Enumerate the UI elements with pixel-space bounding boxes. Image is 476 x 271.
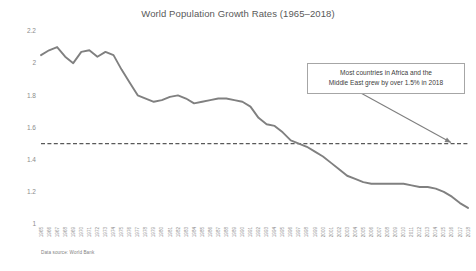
x-tick-label: 2001 xyxy=(329,227,334,238)
y-tick-label: 2 xyxy=(32,59,36,66)
chart-plot-area: 11.21.41.61.822.2 1965196619671968196919… xyxy=(0,0,476,271)
y-tick-label: 1.8 xyxy=(27,92,36,99)
x-tick-label: 1966 xyxy=(47,227,52,238)
chart-container: World Population Growth Rates (1965–2018… xyxy=(0,0,476,271)
annotation-arrow xyxy=(359,92,451,143)
x-tick-label: 2011 xyxy=(409,227,414,237)
x-tick-label: 2006 xyxy=(369,227,374,238)
x-tick-label: 2008 xyxy=(385,227,390,238)
x-tick-label: 1996 xyxy=(288,227,293,238)
x-tick-label: 1995 xyxy=(280,227,285,238)
x-tick-label: 1981 xyxy=(168,227,173,238)
x-tick-label: 2016 xyxy=(449,227,454,238)
x-tick-label: 1990 xyxy=(240,227,245,238)
x-tick-label: 1983 xyxy=(184,227,189,238)
x-tick-label: 1980 xyxy=(159,227,164,238)
y-tick-label: 1 xyxy=(32,220,36,227)
x-tick-label: 2005 xyxy=(361,227,366,238)
annotation-callout: Most countries in Africa and the Middle … xyxy=(307,63,465,94)
x-axis: 1965196619671968196919701971197219731974… xyxy=(39,227,471,238)
x-tick-label: 1977 xyxy=(135,227,140,238)
x-tick-label: 1997 xyxy=(296,227,301,238)
annotation-line-2: Middle East grew by over 1.5% in 2018 xyxy=(329,79,443,86)
x-tick-label: 1988 xyxy=(224,227,229,238)
x-tick-label: 1971 xyxy=(87,227,92,238)
y-tick-label: 1.2 xyxy=(27,188,36,195)
x-tick-label: 1972 xyxy=(95,227,100,238)
x-tick-label: 2002 xyxy=(337,227,342,238)
x-tick-label: 2018 xyxy=(466,227,471,238)
x-tick-label: 1984 xyxy=(192,227,197,238)
x-tick-label: 2013 xyxy=(425,227,430,238)
x-tick-label: 1991 xyxy=(248,227,253,238)
x-tick-label: 1978 xyxy=(143,227,148,238)
x-tick-label: 2000 xyxy=(321,227,326,238)
x-tick-label: 1985 xyxy=(200,227,205,238)
x-tick-label: 1974 xyxy=(111,227,116,238)
y-tick-label: 2.2 xyxy=(27,27,36,34)
x-tick-label: 1987 xyxy=(216,227,221,238)
x-tick-label: 1999 xyxy=(313,227,318,238)
x-tick-label: 1968 xyxy=(63,227,68,238)
y-axis: 11.21.41.61.822.2 xyxy=(27,27,36,227)
x-tick-label: 2003 xyxy=(345,227,350,238)
x-tick-label: 1992 xyxy=(256,227,261,238)
source-note: Data source: World Bank xyxy=(41,250,94,255)
x-tick-label: 1969 xyxy=(71,227,76,238)
x-tick-label: 1967 xyxy=(55,227,60,238)
annotation-line-1: Most countries in Africa and the xyxy=(340,69,432,76)
x-tick-label: 1994 xyxy=(272,227,277,238)
x-tick-label: 2010 xyxy=(401,227,406,238)
x-tick-label: 2009 xyxy=(393,227,398,238)
x-tick-label: 1973 xyxy=(103,227,108,238)
x-tick-label: 1976 xyxy=(127,227,132,238)
x-tick-label: 1982 xyxy=(176,227,181,238)
x-tick-label: 2007 xyxy=(377,227,382,238)
x-tick-label: 1993 xyxy=(264,227,269,238)
y-tick-label: 1.6 xyxy=(27,124,36,131)
x-tick-label: 1975 xyxy=(119,227,124,238)
x-tick-label: 1979 xyxy=(151,227,156,238)
x-tick-label: 1989 xyxy=(232,227,237,238)
x-tick-label: 1965 xyxy=(39,227,44,238)
x-tick-label: 1998 xyxy=(304,227,309,238)
x-tick-label: 2012 xyxy=(417,227,422,238)
x-tick-label: 2004 xyxy=(353,227,358,238)
x-tick-label: 2014 xyxy=(433,227,438,238)
y-tick-label: 1.4 xyxy=(27,156,36,163)
x-tick-label: 2017 xyxy=(458,227,463,238)
x-tick-label: 2015 xyxy=(441,227,446,238)
x-tick-label: 1986 xyxy=(208,227,213,238)
x-tick-label: 1970 xyxy=(79,227,84,238)
